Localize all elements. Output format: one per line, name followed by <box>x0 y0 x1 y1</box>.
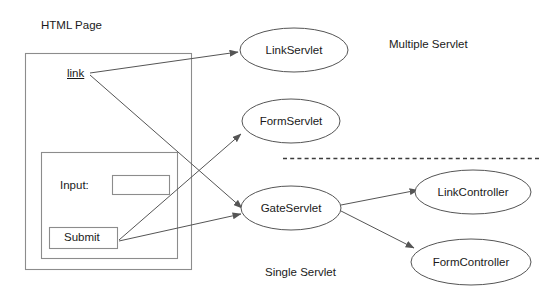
form-box <box>42 153 178 259</box>
input-field-box[interactable] <box>113 176 170 195</box>
node-label-link-controller: LinkController <box>438 186 509 198</box>
node-label-gate-servlet: GateServlet <box>261 202 323 214</box>
submit-button-label[interactable]: Submit <box>64 232 100 244</box>
arrow-gateservlet-to-formcontroller <box>341 211 414 248</box>
html-page-box <box>26 54 192 270</box>
hyperlink-link[interactable]: link <box>67 68 84 80</box>
arrow-submit-to-gateservlet <box>119 214 241 241</box>
arrow-link-to-linkservlet <box>90 52 238 73</box>
multiple-servlet-label: Multiple Servlet <box>389 39 468 51</box>
page-title: HTML Page <box>41 20 102 32</box>
arrow-gateservlet-to-linkcontroller <box>341 190 418 205</box>
single-servlet-label: Single Servlet <box>265 267 336 279</box>
diagram-canvas: LinkServlet FormServlet GateServlet Link… <box>0 0 546 298</box>
node-label-form-servlet: FormServlet <box>260 115 323 127</box>
arrow-submit-to-formservlet <box>119 134 241 240</box>
node-label-link-servlet: LinkServlet <box>266 44 324 56</box>
node-label-form-controller: FormController <box>433 256 510 268</box>
input-label: Input: <box>60 180 89 192</box>
